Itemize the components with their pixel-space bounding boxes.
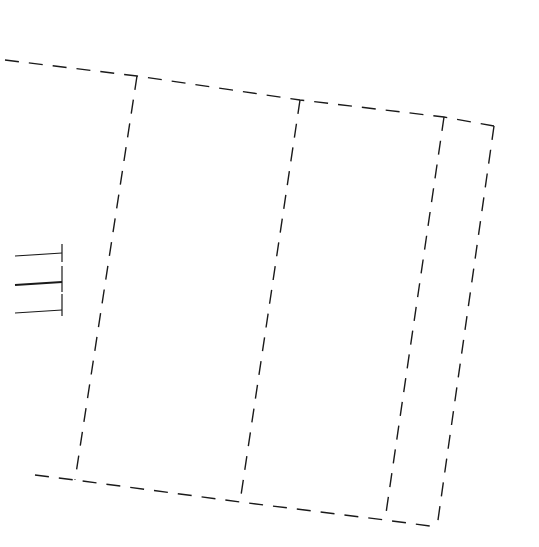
tick-line-3 — [15, 310, 62, 313]
column-1-divider — [75, 76, 137, 480]
tick-marks — [15, 244, 62, 316]
bottom-edge — [35, 475, 437, 527]
top-edge — [5, 60, 494, 126]
column-4-divider — [437, 126, 494, 527]
diagram-canvas — [0, 0, 539, 547]
column-dividers — [75, 76, 494, 527]
tick-line-2 — [15, 282, 62, 285]
column-2-divider — [240, 100, 300, 502]
tick-line-1 — [15, 253, 62, 256]
column-3-divider — [385, 117, 444, 520]
